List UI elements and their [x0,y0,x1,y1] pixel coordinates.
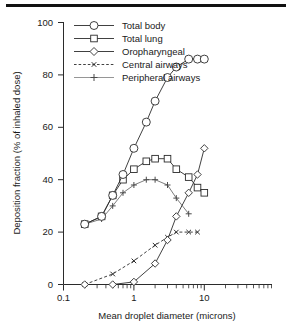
marker-square [173,166,180,173]
plus-icon [91,74,98,81]
y-tick-group: 100 80 60 40 20 0 [37,17,63,290]
marker-circle [142,118,150,126]
marker-square [185,174,192,181]
marker-diamond [81,281,88,288]
x-icon [92,62,97,67]
circle-icon [90,22,98,30]
square-icon [91,35,98,42]
legend-item-total-body[interactable]: Total body [74,20,166,31]
x-ticklabel-10: 10 [199,292,210,303]
legend-item-peripheral-airways[interactable]: Peripheral airways [74,72,200,83]
x-tick-group: 0.1 1 10 [57,285,272,304]
marker-square [194,184,201,191]
legend-label-total-body: Total body [122,20,166,31]
y-ticklabel-80: 80 [42,69,53,80]
series-central-airways [82,230,199,287]
x-axis-title: Mean droplet diameter (microns) [98,310,235,321]
legend-label-total-lung: Total lung [122,33,163,44]
marker-diamond [109,281,116,288]
y-ticklabel-100: 100 [37,17,53,28]
marker-circle [109,191,117,199]
y-ticklabel-60: 60 [42,121,53,132]
marker-diamond [201,145,208,152]
marker-diamond [164,236,171,243]
y-ticklabel-0: 0 [48,279,53,290]
marker-circle [98,212,106,220]
deposition-fraction-chart: 100 80 60 40 20 0 [0,0,289,332]
central-airways-line [85,232,198,284]
marker-square [143,158,150,165]
legend-item-oropharyngeal[interactable]: Oropharyngeal [74,46,185,57]
marker-square [131,166,138,173]
y-ticklabel-20: 20 [42,226,53,237]
legend-label-central-airways: Central airways [122,59,188,70]
marker-circle [151,97,159,105]
marker-circle [130,144,138,152]
x-ticklabel-0.1: 0.1 [57,292,70,303]
y-ticklabel-40: 40 [42,174,53,185]
marker-diamond [194,171,201,178]
marker-square [201,190,208,197]
diamond-icon [90,48,98,56]
x-ticklabel-1: 1 [131,292,136,303]
marker-circle [119,171,127,179]
total-body-line [85,59,205,224]
y-axis-title: Deposition fraction (% of inhaled dose) [11,71,22,234]
marker-diamond [173,213,180,220]
marker-circle [81,220,89,228]
legend-item-central-airways[interactable]: Central airways [74,59,188,70]
marker-square [164,155,171,162]
legend-label-peripheral-airways: Peripheral airways [122,72,200,83]
chart-legend: Total body Total lung Oropharyngeal [74,20,200,83]
legend-item-total-lung[interactable]: Total lung [74,33,163,44]
legend-label-oropharyngeal: Oropharyngeal [122,46,185,57]
marker-square [152,155,159,162]
marker-diamond [185,189,192,196]
figure-container: 100 80 60 40 20 0 [0,0,289,332]
marker-circle [200,55,208,63]
